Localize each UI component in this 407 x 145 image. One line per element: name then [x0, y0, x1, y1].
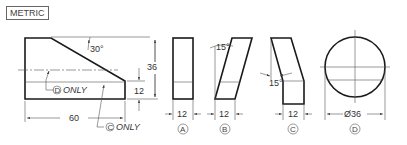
option-c-angle: 15°: [269, 78, 283, 88]
height-36-label: 36: [147, 62, 157, 72]
option-c-dim: 12: [288, 109, 298, 119]
d-circle-letter: D: [55, 86, 61, 95]
option-b-dim: 12: [219, 109, 229, 119]
option-c-letter: C: [290, 125, 296, 134]
main-view: 30° 36 12 60 D ONLY C ONLY: [18, 37, 160, 132]
step-12-label: 12: [134, 86, 144, 96]
option-b-angle: 15°: [216, 42, 230, 52]
option-d-letter: D: [352, 125, 358, 134]
width-60-label: 60: [69, 113, 79, 123]
option-b-letter: B: [222, 125, 227, 134]
option-d[interactable]: Ø36 D: [320, 30, 390, 134]
angle-30-label: 30°: [90, 44, 104, 54]
option-a[interactable]: 12 A: [165, 38, 201, 134]
option-b[interactable]: 15° 12 C B: [207, 38, 252, 134]
d-only-note: ONLY: [63, 85, 88, 95]
c-only-note: ONLY: [116, 122, 141, 132]
drawing-canvas: 30° 36 12 60 D ONLY C ONLY 1: [0, 0, 407, 145]
option-a-label: A: [180, 125, 186, 134]
option-d-dim: Ø36: [344, 109, 361, 119]
option-c[interactable]: 15° 12 C: [260, 38, 312, 134]
option-a-dim: 12: [177, 109, 187, 119]
c-circle-letter: C: [108, 123, 114, 132]
